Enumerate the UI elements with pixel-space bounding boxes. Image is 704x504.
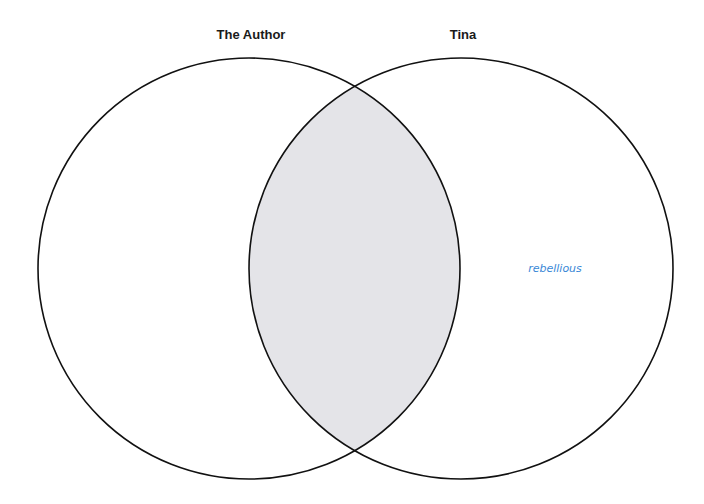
set-title-tina: Tina — [450, 27, 477, 42]
tina-item-rebellious: rebellious — [528, 262, 582, 275]
set-title-the-author: The Author — [217, 27, 286, 42]
venn-diagram — [0, 0, 704, 504]
intersection-region — [249, 58, 673, 479]
